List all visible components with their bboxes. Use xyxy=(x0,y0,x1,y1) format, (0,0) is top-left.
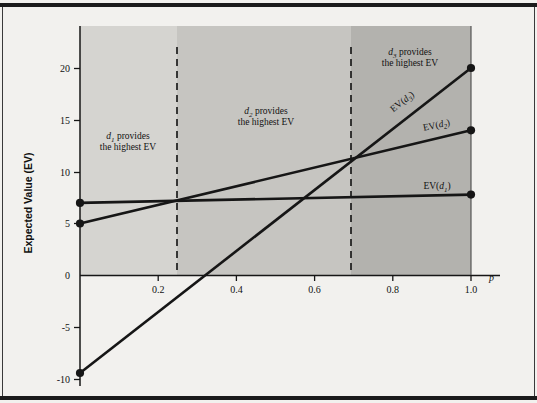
x-tick-label-0.6: 0.6 xyxy=(308,284,321,295)
annotation-d3: d3 provides the highest EV xyxy=(382,47,439,68)
x-tick-label-1.0: 1.0 xyxy=(465,284,478,295)
series-point-ev-d2-end xyxy=(467,126,475,134)
annotation-d2-line2: the highest EV xyxy=(238,117,295,127)
series-point-ev-d3-end xyxy=(467,64,475,72)
y-tick-label-minus5: -5 xyxy=(62,322,70,333)
y-tick-label-0: 0 xyxy=(65,270,70,281)
curve-label-ev-d1-pre: EV( xyxy=(423,181,439,192)
annotation-d1: d1 provides the highest EV xyxy=(100,131,157,152)
annotation-d3-line2: the highest EV xyxy=(382,58,439,68)
annotation-d2: d2 provides the highest EV xyxy=(238,106,295,127)
series-point-ev-d2-start xyxy=(76,219,84,227)
annotation-d1-rest: provides xyxy=(115,131,150,141)
y-tick-label-5: 5 xyxy=(65,218,70,229)
series-point-ev-d1-start xyxy=(76,199,84,207)
x-axis-title: p xyxy=(488,272,494,283)
annotation-d2-rest: provides xyxy=(253,106,288,116)
x-tick-label-0.2: 0.2 xyxy=(152,284,165,295)
y-tick-label-15: 15 xyxy=(60,115,70,126)
chart-svg: 20 15 10 5 0 -5 -10 0.2 0.4 0.6 0.8 1.0 … xyxy=(0,0,537,403)
x-tick-label-0.4: 0.4 xyxy=(230,284,243,295)
figure-container: 20 15 10 5 0 -5 -10 0.2 0.4 0.6 0.8 1.0 … xyxy=(0,0,537,403)
x-tick-label-0.8: 0.8 xyxy=(387,284,400,295)
y-tick-label-20: 20 xyxy=(60,63,70,74)
y-axis-title: Expected Value (EV) xyxy=(22,153,34,254)
series-point-ev-d1-end xyxy=(467,191,475,199)
chart-plot: 20 15 10 5 0 -5 -10 0.2 0.4 0.6 0.8 1.0 … xyxy=(0,0,537,403)
series-point-ev-d3-start xyxy=(76,369,84,377)
y-tick-label-minus10: -10 xyxy=(57,374,70,385)
region-d2-shade xyxy=(177,26,351,275)
y-tick-label-10: 10 xyxy=(60,167,70,178)
curve-label-ev-d1-post: ) xyxy=(447,181,450,192)
annotation-d1-line2: the highest EV xyxy=(100,142,157,152)
annotation-d3-rest: provides xyxy=(397,47,432,57)
